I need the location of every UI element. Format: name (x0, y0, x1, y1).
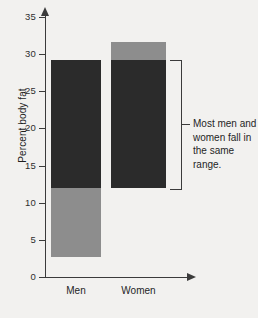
y-tick-label-5: 5 (0, 234, 36, 245)
bar-men-common-range (51, 60, 101, 188)
y-axis-line (45, 14, 46, 278)
y-tick-35 (39, 17, 45, 18)
y-tick-15 (39, 166, 45, 167)
y-tick-label-35: 35 (0, 11, 36, 22)
annotation-line-1: Most men and (193, 118, 256, 129)
annotation-line-4: range. (193, 159, 221, 170)
plot-area: 0 5 10 15 20 25 30 35 Percent body f (0, 0, 258, 318)
y-tick-20 (39, 128, 45, 129)
annotation-bracket-stem (181, 124, 190, 125)
y-tick-label-10: 10 (0, 197, 36, 208)
x-axis-line (45, 277, 188, 278)
y-tick-label-30: 30 (0, 48, 36, 59)
annotation-bracket (170, 60, 182, 190)
y-axis-title: Percent body fat (17, 66, 28, 186)
y-tick-25 (39, 91, 45, 92)
x-axis-arrow-icon (187, 273, 196, 281)
bar-men (51, 60, 101, 257)
y-tick-label-35-wrap: 35 (0, 11, 36, 23)
y-tick-label-0-wrap: 0 (0, 271, 36, 283)
y-tick-label-10-wrap: 10 (0, 197, 36, 209)
y-tick-10 (39, 203, 45, 204)
y-tick-label-0: 0 (0, 271, 36, 282)
x-tick-label-men: Men (51, 285, 101, 296)
y-tick-label-30-wrap: 30 (0, 48, 36, 60)
y-tick-30 (39, 54, 45, 55)
y-tick-5 (39, 240, 45, 241)
x-tick-label-women: Women (111, 285, 166, 296)
annotation-line-2: women fall in (193, 132, 251, 143)
bar-men-lower-range (51, 188, 101, 257)
y-tick-label-5-wrap: 5 (0, 234, 36, 246)
bar-women-upper-range (111, 42, 166, 60)
bar-women (111, 42, 166, 188)
body-fat-bar-chart: 0 5 10 15 20 25 30 35 Percent body f (0, 0, 258, 318)
bar-women-common-range (111, 60, 166, 188)
annotation-line-3: the same (193, 145, 234, 156)
annotation-label: Most men andwomen fall inthe samerange. (193, 117, 257, 171)
